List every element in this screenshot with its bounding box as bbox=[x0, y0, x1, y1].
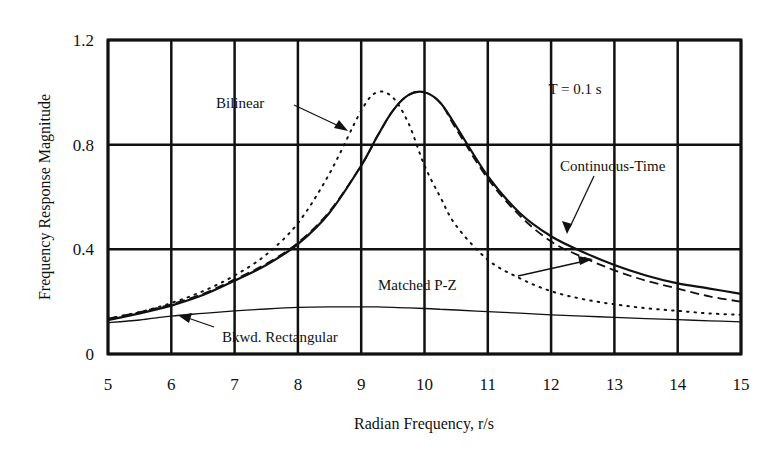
x-tick-label: 15 bbox=[733, 375, 750, 394]
x-tick-label: 13 bbox=[606, 375, 623, 394]
arrowhead-bilinear bbox=[334, 120, 348, 131]
label-bilinear: Bilinear bbox=[216, 95, 264, 111]
x-tick-label: 10 bbox=[416, 375, 433, 394]
frequency-response-chart: 56789101112131415 00.40.81.2 Radian Freq… bbox=[0, 0, 781, 462]
x-tick-labels: 56789101112131415 bbox=[104, 375, 750, 394]
x-tick-label: 8 bbox=[294, 375, 303, 394]
x-tick-label: 5 bbox=[104, 375, 113, 394]
label-bkwd-rectangular: Bkwd. Rectangular bbox=[222, 329, 338, 345]
label-matched-pz: Matched P-Z bbox=[378, 277, 457, 293]
x-tick-label: 6 bbox=[167, 375, 176, 394]
y-tick-label: 1.2 bbox=[73, 31, 94, 50]
x-tick-label: 7 bbox=[230, 375, 239, 394]
x-axis-label: Radian Frequency, r/s bbox=[354, 415, 494, 433]
arrowhead-bkwd-rectangular bbox=[179, 313, 192, 323]
arrowhead-continuous-time bbox=[562, 221, 572, 234]
grid bbox=[108, 40, 741, 354]
y-tick-label: 0.8 bbox=[73, 136, 94, 155]
x-tick-label: 9 bbox=[357, 375, 366, 394]
arrow-continuous-time bbox=[570, 176, 594, 227]
y-tick-label: 0.4 bbox=[73, 240, 95, 259]
x-tick-label: 11 bbox=[480, 375, 496, 394]
sampling-period-annotation: T = 0.1 s bbox=[548, 81, 601, 97]
arrow-bkwd-rectangular bbox=[188, 318, 214, 327]
x-tick-label: 12 bbox=[543, 375, 560, 394]
y-tick-label: 0 bbox=[86, 345, 95, 364]
y-axis-label: Frequency Response Magnitude bbox=[36, 94, 54, 300]
x-tick-label: 14 bbox=[669, 375, 687, 394]
y-tick-labels: 00.40.81.2 bbox=[73, 31, 95, 364]
label-continuous-time: Continuous-Time bbox=[560, 158, 666, 174]
arrow-bilinear bbox=[294, 105, 343, 128]
